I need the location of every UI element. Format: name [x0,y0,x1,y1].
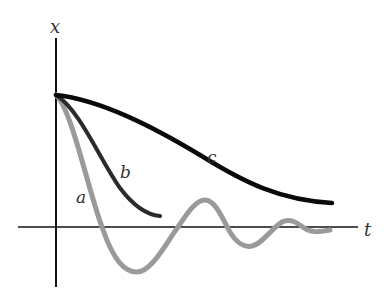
curve-a [56,95,330,272]
damped-oscillation-diagram: x t a b c [0,0,391,293]
curve-a-label: a [76,187,86,207]
curve-b-label: b [120,162,131,182]
x-axis-label: t [364,219,372,240]
y-axis-label: x [50,16,60,37]
curve-c-label: c [207,147,217,167]
curve-b [56,95,160,216]
